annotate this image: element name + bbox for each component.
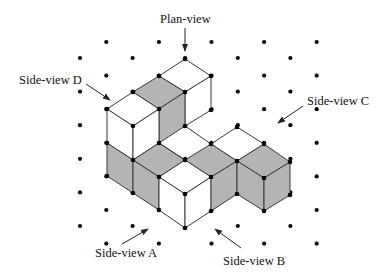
grid-dot [315,40,319,44]
vertex-dot [157,175,162,180]
vertex-dot [131,158,136,163]
side-view-a-arrow-icon [122,229,148,244]
grid-dot [315,141,319,145]
grid-dot [209,40,213,44]
side-view-d-label: Side-view D [19,74,82,87]
vertex-dot [183,192,188,197]
vertex-dot [157,74,162,79]
vertex-dot [131,191,136,196]
vertex-dot [157,107,162,112]
grid-dot [104,40,108,44]
grid-dot [157,40,161,44]
grid-dot [78,90,82,94]
plan-view-label: Plan-view [160,13,211,26]
grid-dot [78,190,82,194]
vertex-dot [209,74,214,79]
grid-dot [104,74,108,78]
grid-dot [315,174,319,178]
grid-dot [209,242,213,246]
vertex-dot [262,142,267,147]
vertex-dot [209,175,214,180]
vertex-dot [235,159,240,164]
grid-dot [262,242,266,246]
side-view-b-arrow-icon [215,229,241,248]
grid-dot [78,56,82,60]
grid-dot [131,224,135,228]
grid-dot [78,224,82,228]
vertex-dot [157,141,162,146]
vertex-dot [131,90,136,95]
vertex-dot [131,124,136,129]
grid-dot [104,208,108,212]
grid-dot [262,74,266,78]
vertex-dot [209,142,214,147]
grid-dot [236,56,240,60]
grid-dot [78,123,82,127]
vertex-dot [183,158,188,163]
vertex-dot [209,209,214,214]
vertex-dot [235,125,240,130]
grid-dot [315,208,319,212]
vertex-dot [288,193,293,198]
grid-dot [315,242,319,246]
side-view-c-arrow-icon [278,106,303,123]
grid-dot [262,40,266,44]
vertex-dot [183,124,188,129]
vertex-dot [183,90,188,95]
grid-dot [288,123,292,127]
block-edge [185,126,211,144]
grid-dot [236,90,240,94]
grid-dot [315,74,319,78]
grid-dot [236,224,240,228]
isometric-diagram: Plan-view Side-view D Side-view C Side-v… [0,0,391,275]
vertex-dot [105,107,110,112]
vertex-dot [183,57,188,62]
diagram-canvas [0,0,391,275]
grid-dot [262,107,266,111]
vertex-dot [105,141,110,146]
vertex-dot [235,192,240,197]
vertex-dot [288,160,293,165]
vertex-dot [209,108,214,113]
side-view-c-label: Side-view C [307,95,369,108]
grid-dot [78,157,82,161]
side-view-a-label: Side-view A [95,247,157,260]
side-view-b-label: Side-view B [223,255,285,268]
grid-dot [288,90,292,94]
vertex-dot [262,176,267,181]
grid-dot [288,56,292,60]
grid-dot [131,56,135,60]
grid-dot [157,242,161,246]
grid-dot [288,224,292,228]
vertex-dot [105,174,110,179]
vertex-dot [262,209,267,214]
vertex-dot [157,208,162,213]
vertex-dot [183,226,188,231]
side-view-d-arrow-icon [86,84,110,100]
